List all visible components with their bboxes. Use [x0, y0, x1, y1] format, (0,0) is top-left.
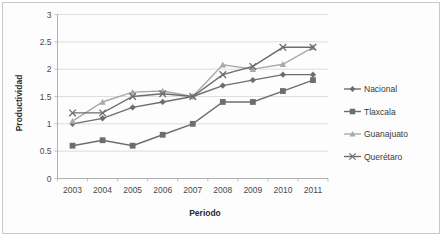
- x-tick-label: 2006: [153, 185, 172, 195]
- data-point-diamond: [99, 115, 105, 121]
- x-tick-label: 2008: [213, 185, 232, 195]
- data-point-diamond: [130, 104, 136, 110]
- y-tick-label: 0.5: [40, 146, 52, 156]
- data-point-square: [350, 109, 356, 115]
- x-tick-label: 2010: [273, 185, 292, 195]
- gridlines-group: [58, 15, 329, 152]
- data-point-square: [220, 99, 226, 105]
- y-tick-labels: 00.511.522.53: [40, 10, 52, 184]
- y-tick-label: 3: [47, 10, 52, 20]
- data-point-diamond: [310, 72, 316, 78]
- chart-container: 00.511.522.53 20032004200520062007200820…: [0, 0, 443, 240]
- y-tick-label: 2: [47, 64, 52, 74]
- data-point-diamond: [280, 72, 286, 78]
- data-point-diamond: [160, 99, 166, 105]
- legend-label: Guanajuato: [364, 129, 408, 139]
- data-point-square: [280, 88, 286, 94]
- data-point-square: [130, 143, 136, 149]
- x-tick-label: 2005: [123, 185, 142, 195]
- data-point-square: [250, 99, 256, 105]
- y-tick-label: 2.5: [40, 37, 52, 47]
- data-point-square: [160, 132, 166, 138]
- series-querétaro: [69, 44, 316, 116]
- chart-legend: NacionalTlaxcalaGuanajuatoQuerétaro: [344, 84, 408, 162]
- y-axis-title: Productividad: [14, 75, 24, 132]
- data-point-square: [190, 121, 196, 127]
- data-point-diamond: [350, 86, 356, 92]
- y-tick-label: 0: [47, 174, 52, 184]
- data-point-square: [70, 143, 76, 149]
- legend-item-guanajuato[interactable]: Guanajuato: [344, 129, 408, 139]
- y-tick-label: 1.5: [40, 92, 52, 102]
- y-tick-label: 1: [47, 119, 52, 129]
- series-guanajuato: [69, 44, 316, 124]
- x-tick-label: 2003: [63, 185, 82, 195]
- data-point-triangle: [69, 118, 75, 124]
- x-tick-label: 2004: [93, 185, 112, 195]
- legend-label: Tlaxcala: [364, 107, 396, 117]
- x-tick-label: 2007: [183, 185, 202, 195]
- legend-item-querétaro[interactable]: Querétaro: [344, 152, 403, 162]
- x-tick-label: 2011: [304, 185, 323, 195]
- series-tlaxcala: [70, 77, 316, 148]
- series-nacional: [69, 72, 316, 127]
- x-tick-label: 2009: [243, 185, 262, 195]
- data-point-diamond: [250, 77, 256, 83]
- legend-item-tlaxcala[interactable]: Tlaxcala: [344, 107, 396, 117]
- x-axis-title: Periodo: [189, 208, 221, 218]
- data-point-square: [310, 77, 316, 83]
- legend-label: Querétaro: [364, 152, 403, 162]
- legend-item-nacional[interactable]: Nacional: [344, 84, 397, 94]
- line-chart: 00.511.522.53 20032004200520062007200820…: [0, 0, 443, 240]
- data-point-diamond: [220, 82, 226, 88]
- x-tick-labels: 200320042005200620072008200920102011: [63, 185, 322, 195]
- legend-label: Nacional: [364, 84, 397, 94]
- data-point-square: [100, 137, 106, 143]
